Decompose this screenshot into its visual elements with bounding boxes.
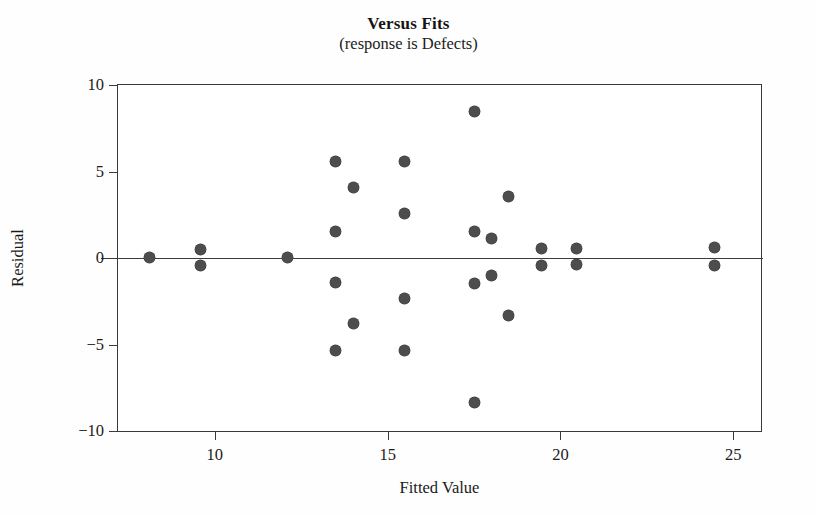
x-axis-label: Fitted Value: [117, 478, 762, 498]
chart-subtitle: (response is Defects): [0, 35, 817, 53]
x-axis-tick-label: 20: [552, 445, 569, 465]
data-point: [571, 259, 582, 270]
data-point: [571, 243, 582, 254]
data-point: [486, 270, 497, 281]
data-point: [503, 310, 514, 321]
data-point: [330, 156, 341, 167]
data-point: [709, 242, 720, 253]
data-point: [399, 293, 410, 304]
data-point: [399, 345, 410, 356]
x-axis-tick-label: 10: [207, 445, 224, 465]
data-point: [469, 278, 480, 289]
data-point: [399, 208, 410, 219]
plot-area: 1050−5−1010152025: [118, 85, 761, 431]
x-axis-tick: [215, 431, 216, 440]
y-axis-tick-label: 10: [88, 75, 105, 95]
x-axis-tick: [560, 431, 561, 440]
data-point: [536, 260, 547, 271]
y-axis-tick: [109, 431, 118, 432]
plot-frame: 1050−5−1010152025: [117, 84, 762, 432]
y-axis-tick-label: −10: [78, 421, 104, 441]
data-point: [348, 318, 359, 329]
data-point: [144, 252, 155, 263]
x-axis-tick-label: 25: [725, 445, 742, 465]
x-axis-tick-label: 15: [379, 445, 396, 465]
chart-title-block: Versus Fits (response is Defects): [0, 14, 817, 54]
y-axis-tick-label: −5: [86, 335, 104, 355]
data-point: [469, 226, 480, 237]
x-axis-tick: [388, 431, 389, 440]
data-point: [195, 244, 206, 255]
y-axis-tick: [109, 258, 118, 259]
y-axis-label: Residual: [8, 229, 28, 287]
page-title: Versus Fits: [0, 14, 817, 33]
data-point: [348, 182, 359, 193]
data-point: [330, 345, 341, 356]
y-axis-tick: [109, 85, 118, 86]
y-axis-tick-label: 5: [96, 162, 104, 182]
data-point: [486, 233, 497, 244]
y-axis-tick: [109, 172, 118, 173]
data-point: [709, 260, 720, 271]
data-point: [399, 156, 410, 167]
y-axis-tick: [109, 345, 118, 346]
data-point: [330, 277, 341, 288]
x-axis-tick: [733, 431, 734, 440]
zero-reference-line: [101, 258, 763, 259]
data-point: [536, 243, 547, 254]
data-point: [469, 397, 480, 408]
data-point: [330, 226, 341, 237]
data-point: [503, 191, 514, 202]
versus-fits-chart: Versus Fits (response is Defects) 1050−5…: [0, 0, 817, 516]
data-point: [282, 252, 293, 263]
data-point: [469, 106, 480, 117]
data-point: [195, 260, 206, 271]
y-axis-tick-label: 0: [96, 248, 104, 268]
